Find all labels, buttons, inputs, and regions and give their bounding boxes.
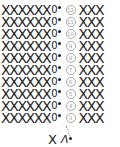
chain-icon: 0: [51, 40, 57, 52]
row-number-badge: 10: [66, 29, 76, 39]
chain-icon: 0: [51, 76, 57, 88]
row-number-badge: 12: [66, 5, 76, 15]
chain-icon: 0: [51, 112, 57, 124]
increase-icon: Λ: [61, 134, 69, 146]
single-crochet-stitches: XXX: [79, 112, 104, 124]
chain-icon: 0: [51, 64, 57, 76]
row-number-badge: 7: [66, 65, 76, 75]
row-number-badge: 4: [66, 101, 76, 111]
single-crochet-icon: X: [48, 134, 57, 146]
row-number-badge: 6: [66, 77, 76, 87]
slip-stitch-icon: [58, 42, 61, 45]
slip-stitch-icon: [58, 78, 61, 81]
chain-icon: 0: [51, 88, 57, 100]
slip-stitch-icon: [58, 90, 61, 93]
slip-stitch-icon: [58, 66, 61, 69]
row-number-badge: 3: [66, 113, 76, 123]
chain-icon: 0: [51, 52, 57, 64]
chart-row-3: XXXXXX 0 3 XXX: [1, 112, 103, 124]
chart-base-row: X Λ: [48, 134, 72, 146]
chain-icon: 0: [51, 28, 57, 40]
chain-icon: 0: [51, 100, 57, 112]
row-number-badge: 11: [66, 17, 76, 27]
slip-stitch-icon: [58, 6, 61, 9]
row-number-badge: 9: [66, 41, 76, 51]
row-number-badge: 5: [66, 89, 76, 99]
row-number-badge: 8: [66, 53, 76, 63]
chain-icon: 0: [51, 4, 57, 16]
slip-stitch-icon: [69, 137, 72, 140]
chain-icon: 0: [51, 16, 57, 28]
slip-stitch-icon: [58, 54, 61, 57]
slip-stitch-icon: [58, 30, 61, 33]
slip-stitch-icon: [58, 114, 61, 117]
slip-stitch-icon: [58, 102, 61, 105]
single-crochet-stitches: XXXXXX: [1, 112, 50, 124]
slip-stitch-icon: [58, 18, 61, 21]
